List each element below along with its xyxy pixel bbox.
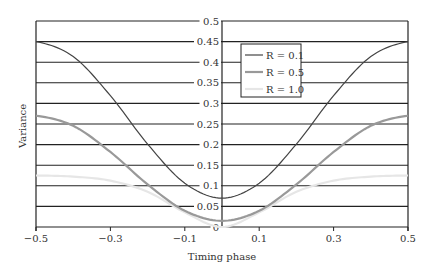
legend-label: R = 0.5 xyxy=(266,67,304,78)
x-axis-label: Timing phase xyxy=(188,251,257,262)
x-tick-label: −0.3 xyxy=(98,233,122,244)
x-tick-labels: −0.5−0.3−0.10.10.30.5 xyxy=(24,233,416,244)
x-tick-label: 0.3 xyxy=(326,233,342,244)
x-tick-label: 0.1 xyxy=(251,233,267,244)
y-tick-label: 0.05 xyxy=(197,201,219,212)
y-tick-label: 0.45 xyxy=(197,36,219,47)
legend-label: R = 0.1 xyxy=(266,50,304,61)
axes xyxy=(36,21,408,231)
x-tick-label: −0.5 xyxy=(24,233,48,244)
y-tick-label: 0.4 xyxy=(203,57,219,68)
legend-label: R = 1.0 xyxy=(266,84,304,95)
y-tick-label: 0.25 xyxy=(197,119,219,130)
y-tick-label: 0.15 xyxy=(197,160,219,171)
y-tick-label: 0.1 xyxy=(203,180,219,191)
y-axis-label: Variance xyxy=(17,104,28,149)
y-tick-label: 0.5 xyxy=(203,16,219,27)
legend: R = 0.1R = 0.5R = 1.0 xyxy=(241,44,304,97)
variance-chart: 00.050.10.150.20.250.30.350.40.450.5 −0.… xyxy=(0,0,432,276)
y-tick-label: 0.35 xyxy=(197,77,219,88)
y-tick-label: 0.3 xyxy=(203,98,219,109)
y-tick-labels: 00.050.10.150.20.250.30.350.40.450.5 xyxy=(197,16,219,233)
x-tick-label: −0.1 xyxy=(173,233,197,244)
x-tick-label: 0.5 xyxy=(400,233,416,244)
y-tick-label: 0.2 xyxy=(203,139,219,150)
